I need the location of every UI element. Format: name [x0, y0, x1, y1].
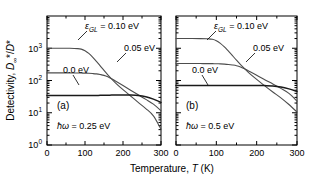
leader-line-000	[73, 75, 79, 85]
y-tick-label: 101	[28, 106, 42, 118]
leader-line-000	[202, 75, 208, 85]
panel-tag: (a)	[57, 100, 69, 111]
label-eps-gl-005: 0.05 eV	[253, 43, 284, 53]
x-tick-label: 100	[77, 148, 92, 158]
leader-line-005	[246, 53, 255, 62]
x-tick-label: 0	[44, 148, 49, 158]
label-eps-gl-005: 0.05 eV	[124, 43, 155, 53]
x-tick-label: 100	[209, 148, 224, 158]
x-axis-title: Temperature, T (K)	[130, 163, 214, 174]
x-tick-label: 300	[153, 148, 168, 158]
y-axis-title: Detectivity, D∞*/D*	[5, 40, 18, 121]
label-eps-gl-000: 0.0 eV	[192, 65, 218, 75]
x-tick-label: 200	[249, 148, 264, 158]
y-tick-label: 103	[28, 42, 42, 54]
curve-eps-0p1	[47, 48, 161, 129]
panel-tag: (b)	[186, 100, 198, 111]
y-tick-label: 102	[28, 74, 42, 86]
leader-line-010	[78, 31, 87, 40]
detectivity-vs-temperature-chart: 0100200300100101102103εGL = 0.10 eV0.05 …	[0, 0, 311, 177]
x-tick-label: 0	[173, 148, 178, 158]
panel-condition: ħω = 0.5 eV	[186, 121, 234, 131]
label-eps-gl-010: εGL = 0.10 eV	[214, 21, 268, 33]
leader-line-005	[117, 53, 126, 62]
label-eps-gl-010: εGL = 0.10 eV	[85, 21, 139, 33]
chart-root: 0100200300100101102103εGL = 0.10 eV0.05 …	[5, 16, 305, 174]
panel-b: 0100200300εGL = 0.10 eV0.05 eV0.0 eV(b)ħ…	[173, 16, 304, 158]
panel-condition: ħω = 0.25 eV	[57, 121, 110, 131]
x-tick-label: 300	[289, 148, 304, 158]
x-tick-label: 200	[115, 148, 130, 158]
label-eps-gl-000: 0.0 eV	[63, 65, 89, 75]
panel-a: 0100200300100101102103εGL = 0.10 eV0.05 …	[28, 16, 168, 158]
figure-container: 0100200300100101102103εGL = 0.10 eV0.05 …	[0, 0, 311, 177]
curve-eps-0	[176, 85, 297, 91]
y-tick-label: 100	[28, 138, 42, 150]
